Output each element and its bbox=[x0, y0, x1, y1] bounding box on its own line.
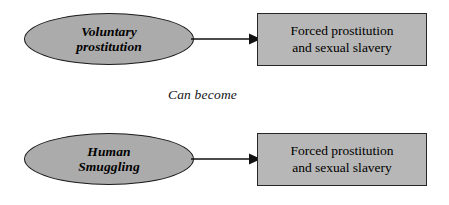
flow-row-human-smuggling: Human Smuggling Forced prostitution and … bbox=[0, 128, 449, 205]
arrow-connector-row-2 bbox=[191, 150, 261, 168]
node-label-line-1: Voluntary bbox=[81, 24, 137, 40]
node-rect-forced-prostitution-2: Forced prostitution and sexual slavery bbox=[257, 133, 427, 186]
node-label-line-2: and sexual slavery bbox=[292, 160, 392, 177]
arrow-connector-row-1 bbox=[191, 30, 261, 48]
caption-can-become: Can become bbox=[0, 87, 449, 103]
node-label-line-2: Smuggling bbox=[78, 159, 140, 175]
node-label-line-1: Forced prostitution bbox=[290, 23, 393, 40]
flow-diagram: Voluntary prostitution Forced prostituti… bbox=[0, 0, 449, 205]
node-label-line-1: Human bbox=[87, 144, 130, 160]
node-ellipse-human-smuggling: Human Smuggling bbox=[24, 133, 194, 185]
node-label-line-1: Forced prostitution bbox=[290, 143, 393, 160]
flow-row-voluntary-prostitution: Voluntary prostitution Forced prostituti… bbox=[0, 8, 449, 88]
node-ellipse-voluntary-prostitution: Voluntary prostitution bbox=[24, 13, 194, 65]
node-rect-forced-prostitution-1: Forced prostitution and sexual slavery bbox=[257, 13, 427, 66]
caption-text: Can become bbox=[168, 87, 237, 103]
node-label-line-2: and sexual slavery bbox=[292, 40, 392, 57]
node-label-line-2: prostitution bbox=[76, 39, 142, 55]
